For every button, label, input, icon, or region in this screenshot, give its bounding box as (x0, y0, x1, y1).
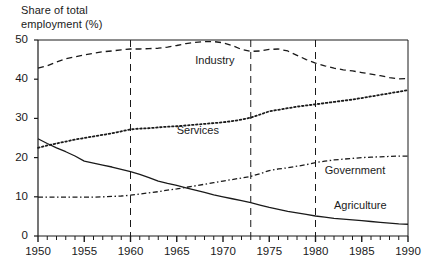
x-tick-label: 1955 (62, 245, 106, 257)
x-tick-label: 1980 (294, 245, 338, 257)
x-tick-label: 1950 (16, 245, 60, 257)
series-label-industry: Industry (195, 54, 234, 66)
series-label-government: Government (325, 164, 386, 176)
y-tick-label: 20 (4, 151, 28, 163)
y-tick-label: 30 (4, 111, 28, 123)
employment-share-chart: Share of total employment (%) 0102030405… (0, 0, 437, 270)
series-label-services: Services (177, 124, 219, 136)
y-tick-label: 50 (4, 33, 28, 45)
x-tick-label: 1990 (386, 245, 430, 257)
x-tick-label: 1960 (109, 245, 153, 257)
series-line-services (38, 90, 408, 148)
series-label-agriculture: Agriculture (334, 199, 387, 211)
x-tick-label: 1985 (340, 245, 384, 257)
y-tick-label: 0 (4, 229, 28, 241)
x-tick-label: 1970 (201, 245, 245, 257)
y-tick-label: 10 (4, 190, 28, 202)
x-tick-label: 1975 (247, 245, 291, 257)
series-line-government (38, 156, 408, 197)
y-tick-label: 40 (4, 72, 28, 84)
x-tick-label: 1965 (155, 245, 199, 257)
